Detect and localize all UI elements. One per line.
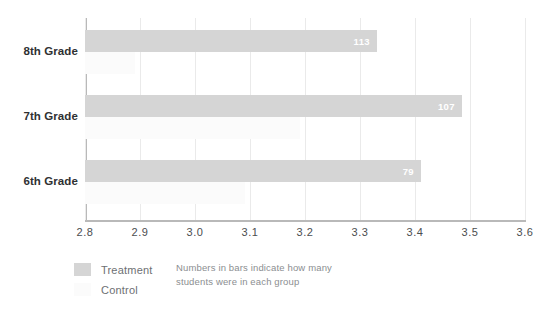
bar-control-7th-grade [85, 117, 300, 139]
category-label-7th-grade: 7th Grade [6, 110, 78, 122]
gridline-3-5 [470, 18, 471, 220]
category-label-8th-grade: 8th Grade [6, 45, 78, 57]
chart-annotation: Numbers in bars indicate how many studen… [176, 261, 406, 288]
bar-value-treatment-6th-grade: 79 [403, 166, 414, 177]
bar-treatment-7th-grade: 107 [85, 95, 462, 117]
x-tick-label-3-4: 3.4 [395, 226, 435, 238]
bar-value-treatment-8th-grade: 113 [353, 36, 370, 47]
chart-legend: Treatment Control Numbers in bars indica… [74, 261, 534, 306]
category-label-6th-grade: 6th Grade [6, 175, 78, 187]
bar-value-treatment-7th-grade: 107 [438, 101, 455, 112]
gridline-3-4 [415, 18, 416, 220]
legend-item-treatment[interactable]: Treatment [74, 261, 153, 278]
x-tick-label-3-3: 3.3 [340, 226, 380, 238]
x-tick-label-3-1: 3.1 [230, 226, 270, 238]
legend-swatch-control-icon [74, 283, 91, 296]
bar-treatment-8th-grade: 113 [85, 30, 377, 52]
legend-item-control[interactable]: Control [74, 281, 138, 298]
x-axis-line [85, 220, 526, 222]
legend-label-treatment: Treatment [101, 264, 153, 276]
bar-chart: 113 107 79 8th Grade 7th Grade 6th Grade… [0, 0, 541, 311]
legend-swatch-treatment-icon [74, 263, 91, 276]
bar-control-8th-grade [85, 52, 135, 74]
gridline-3-6 [525, 18, 526, 220]
annotation-line-2: students were in each group [176, 275, 406, 289]
x-tick-label-2-9: 2.9 [120, 226, 160, 238]
annotation-line-1: Numbers in bars indicate how many [176, 261, 406, 275]
bar-treatment-6th-grade: 79 [85, 160, 421, 182]
x-tick-label-3-2: 3.2 [285, 226, 325, 238]
legend-label-control: Control [101, 284, 138, 296]
x-tick-label-2-8: 2.8 [65, 226, 105, 238]
chart-title [0, 0, 541, 8]
x-tick-label-3-6: 3.6 [505, 226, 541, 238]
x-tick-label-3-0: 3.0 [175, 226, 215, 238]
plot-area: 113 107 79 [85, 18, 525, 220]
x-tick-label-3-5: 3.5 [450, 226, 490, 238]
bar-control-6th-grade [85, 182, 245, 204]
